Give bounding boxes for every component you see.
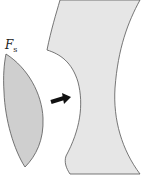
diagram-canvas xyxy=(0,0,143,179)
label-subscript: s xyxy=(13,45,17,54)
arrow-right-icon xyxy=(51,93,71,104)
lens-label: Fs xyxy=(5,38,17,54)
concave-block xyxy=(47,0,140,174)
convex-lens xyxy=(4,54,43,167)
